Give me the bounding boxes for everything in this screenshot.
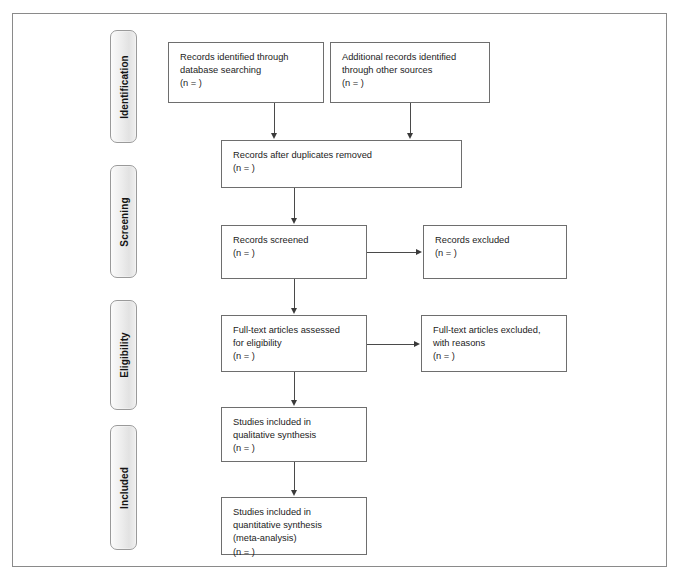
box-additional-records-text: Additional records identified through ot… xyxy=(342,51,480,91)
stage-tab-eligibility-label: Eligibility xyxy=(118,332,129,378)
arrowhead-fulltext-to-qualitative xyxy=(291,400,297,406)
connector-identified-to-dedup xyxy=(274,103,275,134)
arrowhead-additional-to-dedup xyxy=(407,133,413,139)
connector-dedup-to-screened xyxy=(294,188,295,219)
stage-tab-included[interactable]: Included xyxy=(110,425,137,550)
connector-qualitative-to-quantitative xyxy=(294,462,295,491)
stage-tab-identification-label: Identification xyxy=(118,55,129,119)
box-fulltext-excluded-text: Full-text articles excluded, with reason… xyxy=(433,324,557,364)
prisma-flow-diagram: Identification Screening Eligibility Inc… xyxy=(0,0,675,576)
box-studies-quantitative-text: Studies included in quantitative synthes… xyxy=(233,506,357,559)
box-records-excluded-text: Records excluded (n = ) xyxy=(435,234,557,260)
stage-tab-eligibility[interactable]: Eligibility xyxy=(110,300,137,410)
arrowhead-fulltext-to-excluded xyxy=(414,341,420,347)
stage-tab-identification[interactable]: Identification xyxy=(110,30,137,143)
stage-tab-included-label: Included xyxy=(118,467,129,509)
stage-tab-screening[interactable]: Screening xyxy=(110,165,137,278)
connector-screened-to-excluded xyxy=(367,252,417,253)
arrowhead-qualitative-to-quantitative xyxy=(291,490,297,496)
box-records-screened-text: Records screened (n = ) xyxy=(233,234,357,260)
box-records-after-duplicates-text: Records after duplicates removed (n = ) xyxy=(233,149,452,175)
box-records-identified-text: Records identified through database sear… xyxy=(180,51,314,91)
box-studies-qualitative-text: Studies included in qualitative synthesi… xyxy=(233,416,357,456)
connector-fulltext-to-excluded xyxy=(367,344,415,345)
arrowhead-dedup-to-screened xyxy=(291,218,297,224)
box-records-screened[interactable]: Records screened (n = ) xyxy=(221,225,367,279)
box-studies-quantitative[interactable]: Studies included in quantitative synthes… xyxy=(221,497,367,555)
arrowhead-identified-to-dedup xyxy=(271,133,277,139)
box-additional-records[interactable]: Additional records identified through ot… xyxy=(330,42,490,103)
stage-tab-screening-label: Screening xyxy=(118,197,129,246)
connector-additional-to-dedup xyxy=(410,103,411,134)
arrowhead-screened-to-fulltext xyxy=(291,308,297,314)
connector-fulltext-to-qualitative xyxy=(294,372,295,401)
box-studies-qualitative[interactable]: Studies included in qualitative synthesi… xyxy=(221,407,367,462)
box-fulltext-assessed-text: Full-text articles assessed for eligibil… xyxy=(233,324,357,364)
box-fulltext-excluded[interactable]: Full-text articles excluded, with reason… xyxy=(421,315,567,372)
box-records-identified[interactable]: Records identified through database sear… xyxy=(168,42,324,103)
connector-screened-to-fulltext xyxy=(294,279,295,309)
box-records-excluded[interactable]: Records excluded (n = ) xyxy=(423,225,567,279)
box-records-after-duplicates[interactable]: Records after duplicates removed (n = ) xyxy=(221,140,462,188)
box-fulltext-assessed[interactable]: Full-text articles assessed for eligibil… xyxy=(221,315,367,372)
arrowhead-screened-to-excluded xyxy=(416,249,422,255)
